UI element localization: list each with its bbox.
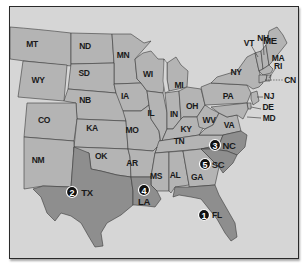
label-wi: WI [143, 69, 153, 79]
label-fl: FL [212, 210, 222, 220]
label-ny: NY [230, 67, 242, 77]
state-co[interactable] [24, 103, 77, 141]
badge-nc: 3 [210, 140, 221, 151]
state-sd[interactable] [68, 63, 116, 93]
label-mo: MO [125, 125, 139, 135]
label-mt: MT [26, 39, 39, 49]
label-ka: KA [86, 123, 98, 133]
svg-text:2: 2 [69, 188, 74, 198]
label-ms: MS [150, 171, 163, 181]
state-ka[interactable] [74, 119, 128, 149]
label-il: IL [148, 108, 155, 118]
label-ga: GA [191, 172, 203, 182]
label-mn: MN [117, 50, 130, 60]
svg-text:1: 1 [201, 211, 206, 221]
label-nd: ND [79, 41, 91, 51]
label-cn: CN [284, 75, 296, 85]
label-nc: NC [222, 140, 236, 151]
label-md: MD [263, 113, 276, 123]
label-nj: NJ [264, 91, 275, 101]
label-ri: RI [274, 61, 282, 71]
label-sd: SD [78, 68, 89, 78]
badge-sc: 5 [200, 159, 211, 170]
label-me: ME [263, 35, 277, 46]
label-la: LA [138, 196, 151, 207]
svg-text:4: 4 [141, 186, 146, 196]
label-vt: VT [244, 38, 255, 48]
state-mt[interactable] [10, 27, 71, 66]
label-mi: MI [175, 80, 184, 90]
label-pa: PA [223, 91, 234, 101]
label-wy: WY [31, 75, 45, 85]
label-co: CO [38, 115, 51, 125]
label-in: IN [170, 109, 178, 119]
state-nj[interactable] [251, 91, 259, 105]
label-ok: OK [95, 151, 108, 161]
label-de: DE [262, 102, 274, 112]
label-va: VA [224, 120, 235, 130]
map-frame: MT ND MN WY SD WI MI NB IA CO KA MO IL I… [9, 6, 299, 259]
badge-tx: 2 [67, 187, 78, 198]
label-ia: IA [121, 91, 129, 101]
label-oh: OH [186, 101, 198, 111]
label-wv: WV [202, 115, 216, 125]
badge-la: 4 [139, 185, 150, 196]
leader-de [251, 107, 261, 109]
state-nd[interactable] [71, 33, 114, 64]
svg-text:5: 5 [202, 160, 207, 170]
leader-md [247, 117, 261, 118]
label-tn: TN [174, 136, 185, 146]
label-al: AL [170, 170, 181, 180]
us-map: MT ND MN WY SD WI MI NB IA CO KA MO IL I… [10, 7, 298, 258]
label-sc: SC [212, 159, 225, 170]
label-nb: NB [79, 95, 91, 105]
label-ky: KY [180, 124, 192, 134]
badge-fl: 1 [199, 210, 210, 221]
state-ct[interactable] [259, 75, 267, 83]
label-ar: AR [126, 158, 138, 168]
label-nm: NM [32, 155, 45, 165]
svg-text:3: 3 [212, 141, 217, 151]
label-tx: TX [81, 187, 94, 198]
